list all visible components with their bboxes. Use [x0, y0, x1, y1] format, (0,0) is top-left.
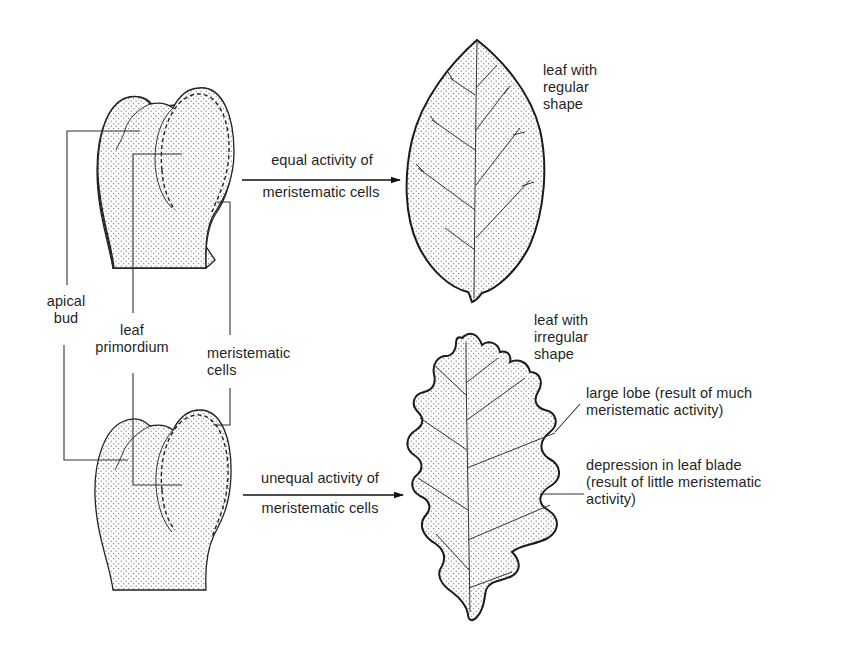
regular-leaf-label: leaf with regular shape [543, 62, 597, 113]
regular-leaf-line3: shape [543, 96, 597, 113]
regular-leaf-line2: regular [543, 79, 597, 96]
large-lobe-line1: large lobe (result of much [586, 385, 752, 402]
irregular-leaf [407, 334, 584, 620]
large-lobe-annotation: large lobe (result of much meristematic … [586, 385, 752, 419]
regular-leaf [407, 40, 545, 302]
depression-annotation: depression in leaf blade (result of litt… [586, 457, 761, 508]
bottom-apical-bud [64, 345, 231, 590]
meristematic-cells-line2: cells [207, 362, 290, 379]
unequal-activity-label-2: meristematic cells [235, 500, 405, 517]
meristematic-cells-line1: meristematic [207, 345, 290, 362]
apical-bud-line1: apical [36, 293, 96, 310]
irregular-leaf-line2: irregular [534, 329, 588, 346]
unequal-activity-line1: unequal activity of [235, 470, 405, 487]
leaf-primordium-line1: leaf [80, 322, 184, 339]
regular-leaf-line1: leaf with [543, 62, 597, 79]
unequal-activity-label: unequal activity of [235, 470, 405, 487]
depression-line3: activity) [586, 491, 761, 508]
leaf-primordium-line2: primordium [80, 339, 184, 356]
depression-line1: depression in leaf blade [586, 457, 761, 474]
irregular-leaf-label: leaf with irregular shape [534, 312, 588, 363]
irregular-leaf-line1: leaf with [534, 312, 588, 329]
equal-activity-line1: equal activity of [244, 152, 400, 169]
large-lobe-line2: meristematic activity) [586, 402, 752, 419]
meristem-leader-top [217, 202, 230, 335]
irregular-leaf-line3: shape [534, 346, 588, 363]
meristematic-cells-label: meristematic cells [207, 345, 290, 379]
unequal-activity-line2: meristematic cells [235, 500, 405, 517]
equal-activity-line2: meristematic cells [238, 184, 404, 201]
equal-activity-label: equal activity of [244, 152, 400, 169]
depression-line2: (result of little meristematic [586, 474, 761, 491]
leaf-primordium-label: leaf primordium [80, 322, 184, 356]
leaf-shape-diagram: equal activity of meristematic cells lea… [0, 0, 859, 657]
equal-activity-label-2: meristematic cells [238, 184, 404, 201]
large-lobe-pointer [555, 404, 580, 432]
